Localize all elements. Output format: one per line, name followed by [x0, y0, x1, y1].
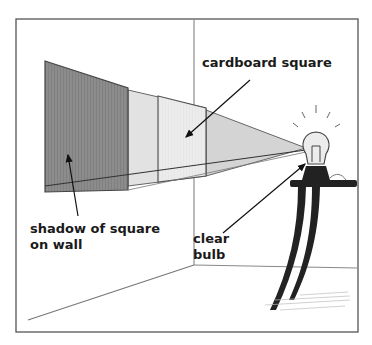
illustration: cardboard square shadow of square on wal… — [0, 0, 372, 345]
label-shadow-line1: shadow of square — [30, 221, 160, 236]
label-bulb-line1: clear — [193, 231, 230, 246]
label-bulb-line2: bulb — [193, 247, 225, 262]
label-cardboard-square: cardboard square — [202, 55, 332, 70]
label-shadow-line2: on wall — [30, 237, 82, 252]
